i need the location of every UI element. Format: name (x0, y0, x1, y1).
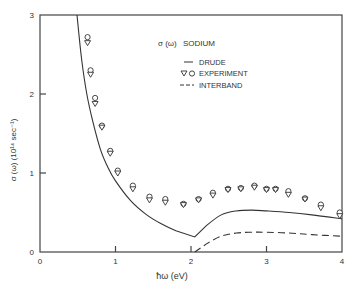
experiment-triangle-point (146, 198, 152, 203)
experiment-triangle-point (130, 187, 136, 192)
y-tick-label: 3 (30, 11, 35, 20)
experiment-triangle-point (107, 151, 113, 156)
legend-circle-icon (189, 71, 194, 76)
x-axis-label: ħω (eV) (156, 271, 188, 281)
y-tick-label: 2 (30, 90, 35, 99)
series-layer (77, 15, 343, 252)
legend-interband-label: INTERBAND (199, 81, 243, 90)
interband-curve (195, 232, 342, 252)
experiment-triangle-point (318, 206, 324, 211)
experiment-triangle-point (285, 192, 291, 197)
conductivity-chart: 012340123 σ (ω) SODIUM DRUDE EXPERIMENT … (0, 0, 352, 286)
chart-title-sigma: σ (ω) (158, 39, 177, 48)
y-tick-label: 0 (30, 248, 35, 257)
legend-experiment-label: EXPERIMENT (199, 69, 248, 78)
x-tick-label: 4 (340, 257, 345, 266)
legend: σ (ω) SODIUM DRUDE EXPERIMENT INTERBAND (158, 39, 248, 90)
experiment-triangle-point (92, 101, 98, 106)
x-tick-label: 3 (264, 257, 269, 266)
legend-triangle-icon (181, 71, 187, 76)
experiment-triangle-point (85, 41, 91, 46)
chart-title-material: SODIUM (183, 39, 215, 48)
experiment-triangle-point (88, 72, 94, 77)
plot-axes: 012340123 (30, 11, 345, 266)
y-axis-label: σ (ω) (10¹⁴ sec⁻¹) (9, 118, 18, 181)
legend-drude-label: DRUDE (199, 58, 226, 67)
experiment-triangle-point (210, 193, 216, 198)
experiment-circle-point (93, 95, 98, 100)
drude-curve (77, 15, 342, 237)
y-tick-label: 1 (30, 169, 35, 178)
x-tick-label: 2 (189, 257, 194, 266)
experiment-triangle-point (115, 171, 121, 176)
x-tick-label: 0 (38, 257, 43, 266)
experiment-triangle-point (162, 200, 168, 205)
x-tick-label: 1 (113, 257, 118, 266)
experiment-circle-point (85, 35, 90, 40)
plot-frame (40, 15, 342, 252)
